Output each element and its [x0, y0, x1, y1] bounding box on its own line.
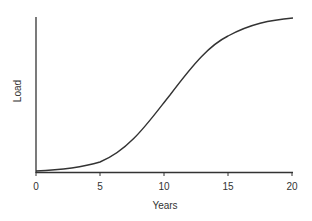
chart: 0 5 10 15 20 Years Load [0, 0, 312, 221]
y-axis-title: Load [12, 80, 23, 102]
x-axis-title: Years [152, 200, 177, 211]
x-tick-label: 15 [222, 181, 234, 192]
x-tick-label: 5 [97, 181, 103, 192]
x-tick-label: 20 [286, 181, 298, 192]
x-tick-label: 0 [33, 181, 39, 192]
x-tick-label: 10 [158, 181, 170, 192]
load-curve [36, 18, 293, 171]
x-tick-labels: 0 5 10 15 20 [33, 181, 298, 192]
plot-area [36, 17, 293, 176]
